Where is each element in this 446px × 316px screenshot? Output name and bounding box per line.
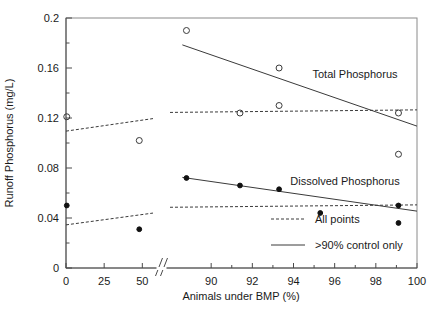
y-tick-label: 0.04 bbox=[38, 212, 59, 224]
data-point bbox=[237, 110, 243, 116]
scatter-plot: 00.040.080.120.160.2 025509092949698100 … bbox=[0, 0, 446, 316]
y-axis-tick-labels: 00.040.080.120.160.2 bbox=[38, 12, 59, 274]
data-point bbox=[183, 28, 189, 34]
data-point bbox=[238, 183, 243, 188]
chart-container: 00.040.080.120.160.2 025509092949698100 … bbox=[0, 0, 446, 316]
x-axis-tick-labels: 025509092949698100 bbox=[63, 275, 426, 287]
data-point bbox=[184, 176, 189, 181]
x-tick-label: 50 bbox=[136, 275, 148, 287]
x-axis-title: Animals under BMP (%) bbox=[182, 290, 299, 302]
data-point bbox=[395, 110, 401, 116]
x-tick-label: 90 bbox=[205, 275, 217, 287]
x-tick-label: 92 bbox=[246, 275, 258, 287]
regression-line-dashed bbox=[170, 110, 417, 113]
data-point bbox=[64, 203, 69, 208]
regression-line-solid bbox=[182, 45, 417, 126]
data-point bbox=[395, 151, 401, 157]
legend-label-control-only: >90% control only bbox=[315, 239, 403, 251]
data-point bbox=[396, 221, 401, 226]
x-tick-label: 96 bbox=[329, 275, 341, 287]
y-tick-label: 0.2 bbox=[44, 12, 59, 24]
data-point bbox=[276, 103, 282, 109]
y-axis-title: Runoff Phosphorus (mg/L) bbox=[3, 79, 15, 208]
data-point bbox=[276, 65, 282, 71]
regression-line-dashed bbox=[66, 213, 153, 225]
series-label-total-phosphorus: Total Phosphorus bbox=[313, 68, 398, 80]
y-tick-label: 0.08 bbox=[38, 162, 59, 174]
x-axis-ticks bbox=[66, 263, 417, 268]
y-axis-ticks bbox=[66, 18, 72, 268]
legend-label-all-points: All points bbox=[315, 213, 360, 225]
data-points bbox=[64, 28, 402, 232]
series-label-dissolved-phosphorus: Dissolved Phosphorus bbox=[290, 175, 400, 187]
data-point bbox=[396, 203, 401, 208]
x-tick-label: 98 bbox=[370, 275, 382, 287]
data-point bbox=[64, 114, 70, 120]
x-tick-label: 25 bbox=[98, 275, 110, 287]
y-tick-label: 0 bbox=[53, 262, 59, 274]
x-tick-label: 0 bbox=[63, 275, 69, 287]
axis-break-marker bbox=[156, 258, 168, 276]
plot-frame bbox=[66, 18, 417, 268]
x-tick-label: 94 bbox=[287, 275, 299, 287]
data-point bbox=[137, 227, 142, 232]
data-point bbox=[136, 138, 142, 144]
x-tick-label: 100 bbox=[408, 275, 426, 287]
regression-line-dashed bbox=[66, 119, 153, 132]
data-point bbox=[277, 187, 282, 192]
y-tick-label: 0.16 bbox=[38, 62, 59, 74]
y-tick-label: 0.12 bbox=[38, 112, 59, 124]
legend: All points >90% control only bbox=[271, 213, 403, 251]
